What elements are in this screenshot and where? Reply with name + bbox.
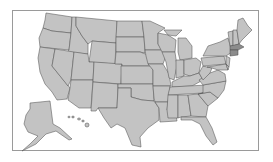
state-colorado[interactable]: [93, 62, 122, 84]
state-indiana[interactable]: [176, 60, 184, 78]
state-arizona[interactable]: [68, 80, 93, 108]
us-map: [0, 0, 273, 162]
state-michigan[interactable]: [178, 38, 192, 60]
state-wyoming[interactable]: [89, 41, 116, 64]
state-new-york[interactable]: [203, 38, 232, 56]
state-kansas[interactable]: [121, 66, 153, 84]
state-south-dakota[interactable]: [116, 37, 145, 53]
state-hawaii[interactable]: [68, 116, 89, 127]
state-north-dakota[interactable]: [116, 21, 144, 37]
state-mississippi[interactable]: [167, 95, 178, 118]
state-connecticut-ri[interactable]: [230, 50, 238, 56]
state-florida[interactable]: [181, 117, 217, 145]
state-maine[interactable]: [237, 18, 252, 44]
state-new-mexico[interactable]: [91, 82, 118, 111]
state-alaska[interactable]: [22, 101, 72, 151]
